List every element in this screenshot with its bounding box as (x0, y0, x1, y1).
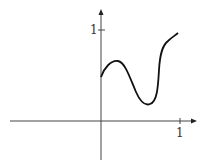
y-tick-label: 1 (90, 24, 98, 36)
x-axis-arrow-icon (191, 119, 197, 124)
x-tick-label: 1 (176, 127, 184, 139)
function-plot (0, 0, 204, 168)
function-curve (101, 33, 178, 104)
y-axis-arrow-icon (99, 9, 104, 15)
